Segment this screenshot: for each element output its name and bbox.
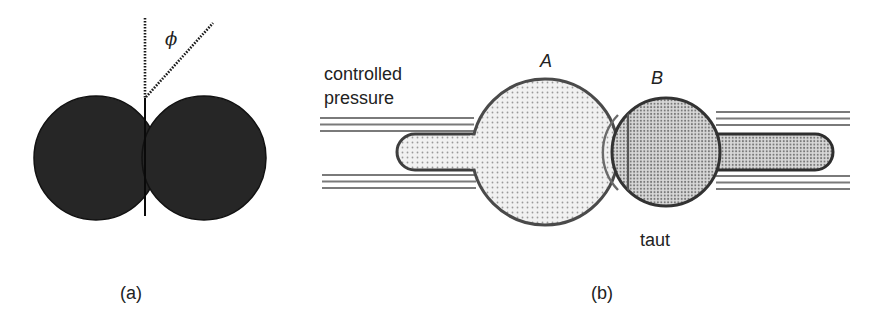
panel-a-doublet: [34, 18, 266, 220]
angle-phi-label: ϕ: [165, 30, 177, 48]
panel-a-caption: (a): [120, 284, 142, 302]
figure-canvas: [0, 0, 873, 317]
right-cell: [142, 96, 266, 220]
pressure-label: pressure: [324, 89, 394, 107]
taut-label: taut: [640, 231, 670, 249]
left-cell: [34, 96, 158, 220]
panel-b-caption: (b): [591, 284, 613, 302]
vesicle-a-label: A: [540, 52, 552, 70]
vesicle-b-label: B: [651, 69, 663, 87]
controlled-label: controlled: [324, 65, 402, 83]
vesicle-a: [397, 79, 618, 225]
tangent-dotted-line: [146, 23, 213, 97]
